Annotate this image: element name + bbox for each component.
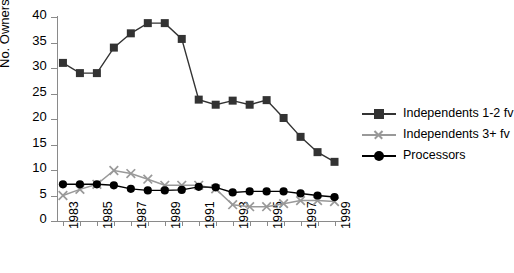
x-tick-mark-1998 xyxy=(318,221,319,226)
y-tick-label: 5 xyxy=(40,187,47,200)
x-tick-mark-1990 xyxy=(182,221,183,226)
legend-label: Processors xyxy=(403,149,466,162)
x-tick-mark-1983 xyxy=(63,221,64,226)
legend-marker-circle-icon xyxy=(362,150,396,162)
x-tick-mark-1999 xyxy=(335,221,336,226)
legend-item-2[interactable]: Independents 3+ fv xyxy=(362,124,514,145)
x-tick-mark-1994 xyxy=(250,221,251,226)
x-tick-mark-1989 xyxy=(165,221,166,226)
x-tick-mark-1992 xyxy=(216,221,217,226)
legend-label: Independents 3+ fv xyxy=(403,128,510,141)
x-tick-mark-1991 xyxy=(199,221,200,226)
series-processors xyxy=(59,180,339,201)
legend-item-1[interactable]: Independents 1-2 fv xyxy=(362,103,514,124)
y-tick-label: 30 xyxy=(32,59,47,72)
legend-label: Independents 1-2 fv xyxy=(403,107,514,120)
legend-symbol xyxy=(373,129,384,140)
x-tick-mark-1984 xyxy=(80,221,81,226)
x-tick-mark-1986 xyxy=(114,221,115,226)
y-tick-label: 0 xyxy=(40,212,47,225)
y-tick-label: 15 xyxy=(32,136,47,149)
x-tick-mark-1993 xyxy=(233,221,234,226)
y-tick-mark xyxy=(51,221,57,222)
legend-item-3[interactable]: Processors xyxy=(362,145,514,166)
y-tick-label: 20 xyxy=(32,110,47,123)
x-tick-mark-1987 xyxy=(131,221,132,226)
legend-marker-square-icon xyxy=(362,108,396,120)
y-tick-label: 35 xyxy=(32,34,47,47)
legend-symbol xyxy=(374,109,384,119)
plot-area xyxy=(57,17,343,221)
y-tick-label: 40 xyxy=(32,8,47,21)
legend-marker-x-icon xyxy=(362,129,396,141)
x-tick-mark-1995 xyxy=(267,221,268,226)
y-axis-title: No. Owners xyxy=(0,0,11,68)
y-tick-label: 10 xyxy=(32,161,47,174)
y-tick-label: 25 xyxy=(32,85,47,98)
legend-symbol xyxy=(374,151,384,161)
x-tick-mark-1985 xyxy=(97,221,98,226)
x-tick-mark-1988 xyxy=(148,221,149,226)
chart-legend: Independents 1-2 fvIndependents 3+ fvPro… xyxy=(362,103,514,166)
x-tick-mark-1996 xyxy=(284,221,285,226)
series-independents-1-2-fv xyxy=(59,19,339,166)
x-tick-mark-1997 xyxy=(301,221,302,226)
